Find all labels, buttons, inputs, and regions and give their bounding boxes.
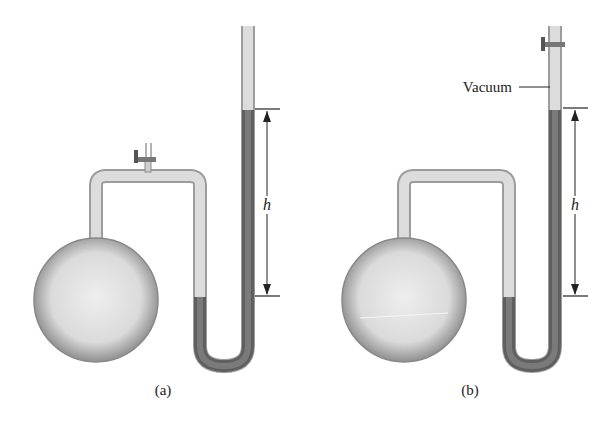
gas-bulb bbox=[34, 238, 158, 362]
caption-b: (b) bbox=[461, 382, 479, 399]
panel-a: h (a) bbox=[34, 26, 280, 399]
height-dimension: h bbox=[255, 109, 280, 296]
manometer-diagram: h (a) Vacuum h (b) bbox=[0, 0, 615, 428]
panel-b: Vacuum h (b) bbox=[342, 26, 588, 399]
caption-a: (a) bbox=[155, 382, 172, 399]
height-label-b: h bbox=[571, 196, 579, 213]
mercury-column bbox=[200, 110, 248, 366]
gas-bulb bbox=[342, 238, 466, 362]
stopcock-icon bbox=[134, 143, 156, 172]
height-label-a: h bbox=[263, 196, 271, 213]
vacuum-label: Vacuum bbox=[463, 79, 512, 95]
height-dimension: h bbox=[563, 108, 588, 296]
